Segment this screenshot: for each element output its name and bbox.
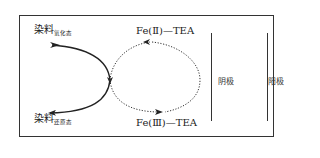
cathode-line bbox=[211, 33, 212, 121]
fe-oxidation-arrow bbox=[110, 42, 150, 80]
cathode-label: 阴极 bbox=[218, 77, 234, 87]
dye-oxidized-label: 染料氧化态 bbox=[34, 24, 72, 39]
dye-reduced-label: 染料还原态 bbox=[34, 113, 72, 128]
fe-reduction-arrow bbox=[110, 80, 160, 112]
dye-oxidized-main: 染料 bbox=[34, 24, 54, 35]
dye-reduced-sub: 还原态 bbox=[54, 119, 72, 125]
dye-reduction-arrow bbox=[52, 45, 110, 80]
dye-reduction-arrow-lower bbox=[50, 80, 110, 113]
dye-oxidized-sub: 氧化态 bbox=[54, 30, 72, 36]
fe2-tea-label: Fe(Ⅱ)—TEA bbox=[136, 25, 194, 37]
fe3-tea-label: Fe(Ⅲ)—TEA bbox=[136, 117, 197, 129]
arrowhead-in-icon bbox=[50, 42, 60, 48]
arrowhead-left-icon bbox=[143, 39, 150, 45]
anode-label: 阳极 bbox=[268, 77, 284, 87]
dye-reduced-main: 染料 bbox=[34, 113, 54, 124]
fe-cycle-right-arc bbox=[152, 42, 200, 112]
